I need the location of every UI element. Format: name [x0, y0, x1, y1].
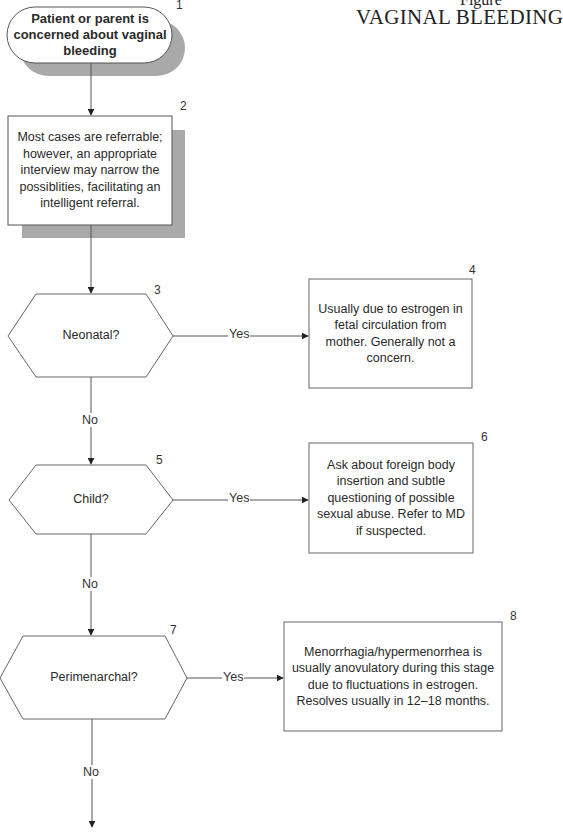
decision-node-3-text: Neonatal? [36, 294, 146, 377]
edge-label-yes-3: Yes [228, 327, 250, 341]
terminal-node-1-text: Patient or parent is concerned about vag… [12, 7, 168, 63]
edge-label-no-7: No [82, 765, 100, 779]
process-node-4-text: Usually due to estrogen in fetal circula… [318, 281, 463, 386]
node-number-1: 1 [176, 0, 183, 12]
node-number-7: 7 [170, 623, 177, 637]
edge-label-no-3: No [81, 413, 99, 427]
process-node-8-text: Menorrhagia/hypermenorrhea is usually an… [290, 624, 496, 729]
process-node-2-text: Most cases are referrable; however, an a… [14, 118, 166, 223]
node-number-4: 4 [469, 263, 476, 277]
figure-title: VAGINAL BLEEDING [356, 5, 563, 30]
node-number-3: 3 [154, 283, 161, 297]
node-number-6: 6 [481, 430, 488, 444]
node-number-5: 5 [156, 453, 163, 467]
edge-label-yes-7: Yes [222, 670, 244, 684]
decision-node-5-text: Child? [36, 465, 146, 534]
node-number-2: 2 [180, 99, 187, 113]
edge-label-no-5: No [81, 577, 99, 591]
process-node-6-text: Ask about foreign body insertion and sub… [314, 445, 468, 551]
decision-node-7-text: Perimenarchal? [23, 636, 165, 719]
edge-label-yes-5: Yes [228, 491, 250, 505]
node-number-8: 8 [510, 609, 517, 623]
